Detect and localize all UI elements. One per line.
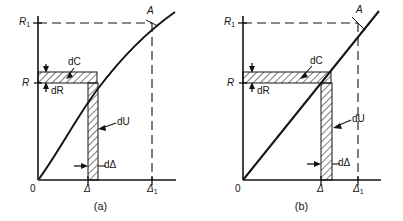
dc-label-a: dC: [68, 57, 81, 67]
dr-label-b: dR: [257, 86, 270, 96]
x-label-origin-a: 0: [30, 184, 36, 194]
ddelta-label-a: dΔ: [104, 160, 116, 170]
panel-b-graphic: [201, 0, 402, 221]
y-label-r1-a: R1: [19, 17, 30, 27]
point-label-a-b: A: [356, 5, 363, 15]
x-label-delta-a: Δ: [84, 184, 91, 194]
x-label-origin-b: 0: [235, 184, 241, 194]
dc-strip-b: [243, 72, 331, 83]
point-label-a-a: A: [147, 6, 154, 16]
ddelta-arrowhead-a: [81, 163, 88, 169]
ddelta-label-b: dΔ: [338, 158, 350, 168]
caption-b: (b): [201, 200, 402, 212]
x-label-delta1-b: Δ1: [353, 184, 364, 194]
figure-container: R1 R 0 Δ Δ1 A dC dR dU dΔ (a): [0, 0, 403, 221]
du-label-a: dU: [117, 117, 130, 127]
x-label-delta1-a: Δ1: [147, 184, 158, 194]
du-arrowhead-a: [98, 125, 106, 131]
du-label-b: dU: [352, 114, 365, 124]
dr-label-a: dR: [51, 86, 64, 96]
du-strip-a: [88, 83, 98, 180]
y-label-r1-b: R1: [224, 17, 235, 27]
panel-a: R1 R 0 Δ Δ1 A dC dR dU dΔ (a): [0, 0, 201, 221]
caption-a: (a): [0, 200, 201, 212]
dc-label-b: dC: [310, 56, 323, 66]
x-label-delta-b: Δ: [317, 184, 324, 194]
y-label-r-b: R: [227, 78, 234, 88]
ddelta-arrowhead-b: [314, 161, 321, 167]
panel-b: R1 R 0 Δ Δ1 A dC dR dU dΔ (b): [201, 0, 402, 221]
du-strip-b: [321, 83, 332, 180]
y-label-r-a: R: [22, 78, 29, 88]
